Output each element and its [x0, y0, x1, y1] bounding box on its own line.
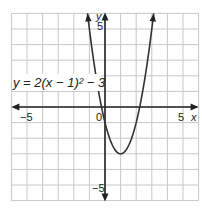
- x-tick-label-5: 5: [178, 111, 184, 123]
- x-axis-label: x: [190, 111, 197, 123]
- axes: [11, 12, 198, 201]
- coordinate-plane: y = 2(x − 1)² − 3 −5 0 5 x 5 y −5: [0, 0, 202, 215]
- x-tick-label-neg5: −5: [20, 111, 33, 123]
- equation-label: y = 2(x − 1)² − 3: [12, 75, 106, 90]
- origin-label: 0: [96, 111, 102, 123]
- x-axis-right-arrow-icon: [191, 104, 199, 111]
- x-axis-left-arrow-icon: [11, 104, 19, 111]
- y-tick-label-neg5: −5: [92, 182, 105, 194]
